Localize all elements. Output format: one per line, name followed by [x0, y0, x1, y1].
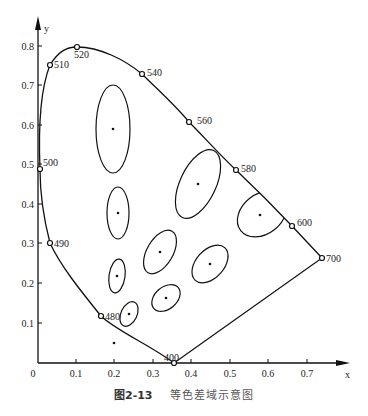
x-tick-label: 0.4 [185, 368, 198, 379]
locus-markers [38, 45, 325, 366]
x-tick-label: 0.7 [301, 368, 314, 379]
x-tick-label: 0.1 [70, 368, 83, 379]
y-tick-labels: 0.8 0.7 0.6 0.5 0.4 0.3 0.2 0.1 [22, 41, 35, 329]
y-axis-arrow-icon [35, 16, 41, 30]
wavelength-label-700: 700 [326, 253, 341, 264]
x-axis-arrow-icon [336, 360, 350, 366]
y-tick-label: 0.1 [22, 318, 35, 329]
wavelength-label-600: 600 [297, 217, 312, 228]
y-tick-label: 0.4 [22, 199, 35, 210]
x-tick-label: 0.3 [147, 368, 160, 379]
wavelength-label-520: 520 [74, 49, 89, 60]
y-tick-label: 0.8 [22, 41, 35, 52]
y-tick-label: 0.7 [22, 80, 35, 91]
color-difference-ellipses [96, 85, 296, 353]
wavelength-label-560: 560 [197, 115, 212, 126]
axes [38, 22, 343, 363]
wavelength-label-480: 480 [105, 311, 120, 322]
y-tick-label: 0.2 [22, 278, 35, 289]
x-tick-label: 0.5 [224, 368, 237, 379]
wavelength-label-500: 500 [43, 157, 58, 168]
figure-title: 等色差域示意图 [170, 389, 254, 402]
x-tick-label: 0.2 [108, 368, 121, 379]
wavelength-label-580: 580 [241, 163, 256, 174]
x-axis-name: x [345, 369, 350, 380]
ellipse-centers [112, 128, 262, 345]
x-tick-labels: 0 0.1 0.2 0.3 0.4 0.5 0.6 0.7 [31, 368, 314, 379]
spectral-locus [39, 47, 322, 363]
ellipse [228, 182, 295, 247]
x-tick-label: 0.6 [262, 368, 275, 379]
figure-number: 图2-13 [114, 389, 153, 402]
wavelength-label-490: 490 [54, 238, 69, 249]
wavelength-label-510: 510 [54, 59, 69, 70]
wavelength-label-400: 400 [164, 352, 179, 363]
figure-caption: 图2-13 等色差域示意图 [0, 386, 368, 402]
wavelength-labels: 400 480 490 500 510 520 540 560 580 600 … [43, 49, 341, 363]
origin-label: 0 [31, 368, 36, 379]
chromaticity-diagram: 0.8 0.7 0.6 0.5 0.4 0.3 0.2 0.1 0 0.1 0.… [0, 0, 368, 416]
y-tick-label: 0.6 [22, 120, 35, 131]
y-tick-label: 0.3 [22, 238, 35, 249]
y-tick-label: 0.5 [22, 159, 35, 170]
wavelength-label-540: 540 [147, 67, 162, 78]
y-axis-name: y [44, 23, 49, 34]
